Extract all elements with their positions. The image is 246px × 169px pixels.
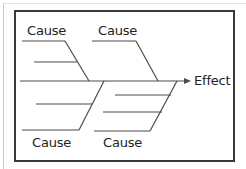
cause-label-top-right: Cause: [98, 24, 137, 37]
cause-label-bottom-left: Cause: [32, 136, 71, 149]
top-right-bone: [136, 41, 158, 81]
cause-label-top-left: Cause: [27, 24, 66, 37]
cause-label-bottom-right: Cause: [103, 136, 142, 149]
bottom-left-bone: [79, 81, 104, 130]
arrowhead-icon: [184, 78, 191, 84]
effect-label: Effect: [194, 74, 230, 87]
bottom-right-bone: [150, 81, 177, 131]
top-left-bone: [65, 41, 89, 81]
